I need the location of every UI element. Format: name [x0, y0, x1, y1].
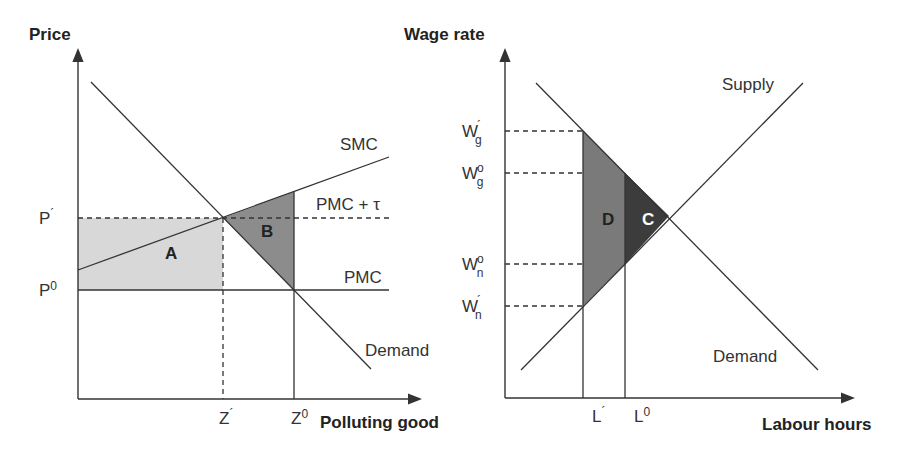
- region-b-label: B: [261, 222, 273, 241]
- supply-label: Supply: [722, 75, 774, 94]
- region-c-label: C: [642, 210, 654, 229]
- l-prime-tick: L´: [592, 405, 605, 426]
- figure: Price Polluting good SMC PMC + τ PMC Dem…: [0, 0, 915, 457]
- region-d-label: D: [602, 210, 614, 229]
- y-axis-label: Price: [29, 25, 71, 44]
- region-b: [223, 192, 294, 290]
- right-panel: Wage rate Labour hours Supply Demand W´g…: [404, 25, 872, 434]
- region-a: [78, 218, 223, 290]
- demand-label: Demand: [365, 341, 429, 360]
- pmc-label: PMC: [344, 268, 382, 287]
- wg-prime-tick: W´g: [462, 119, 482, 147]
- wn-prime-tick: W´n: [462, 294, 482, 322]
- wg0-tick: Wog: [462, 161, 484, 189]
- x-axis-label: Polluting good: [320, 413, 439, 432]
- x-axis-label: Labour hours: [762, 415, 872, 434]
- p-prime-tick: P´: [39, 207, 54, 228]
- z0-tick: Z0: [291, 407, 308, 428]
- pmc-tax-label: PMC + τ: [316, 195, 380, 214]
- supply-curve: [521, 83, 803, 370]
- y-axis-label: Wage rate: [404, 25, 485, 44]
- p0-tick: P0: [39, 279, 57, 300]
- smc-label: SMC: [340, 135, 378, 154]
- demand-label: Demand: [713, 347, 777, 366]
- region-a-label: A: [165, 244, 177, 263]
- wn0-tick: Won: [462, 252, 484, 280]
- demand-curve: [536, 83, 818, 370]
- l0-tick: L0: [634, 405, 650, 426]
- left-panel: Price Polluting good SMC PMC + τ PMC Dem…: [29, 25, 439, 432]
- z-prime-tick: Z´: [219, 407, 233, 428]
